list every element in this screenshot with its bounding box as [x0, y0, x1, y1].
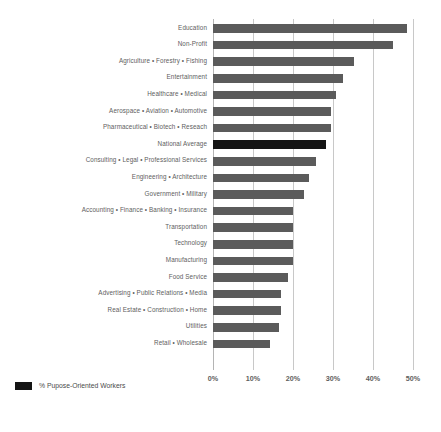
bar-row: Accounting • Finance • Banking • Insuran… — [213, 204, 413, 221]
bar-row: Government • Military — [213, 187, 413, 204]
bar — [213, 223, 293, 232]
plot-area: EducationNon-ProfitAgriculture • Forestr… — [213, 19, 413, 370]
bar-row: Manufacturing — [213, 253, 413, 270]
category-label: Healthcare • Medical — [147, 89, 207, 98]
category-label: Advertising • Public Relations • Media — [98, 288, 207, 297]
bar-row: Non-Profit — [213, 38, 413, 55]
category-label: Consulting • Legal • Professional Servic… — [86, 155, 207, 164]
bar-chart: EducationNon-ProfitAgriculture • Forestr… — [0, 0, 441, 432]
category-label: National Average — [158, 139, 207, 148]
bar-row: Engineering • Architecture — [213, 170, 413, 187]
bar — [213, 41, 393, 50]
x-tick-label: 30% — [326, 374, 340, 384]
bar-row: Education — [213, 21, 413, 38]
category-label: Non-Profit — [178, 39, 207, 48]
bar — [213, 24, 407, 33]
x-tick-label: 40% — [366, 374, 380, 384]
bar — [213, 207, 293, 216]
bar-row: Pharmaceutical • Biotech • Reseach — [213, 121, 413, 138]
category-label: Utilities — [186, 321, 207, 330]
category-label: Transportation — [165, 222, 207, 231]
bar-row: Real Estate • Construction • Home — [213, 303, 413, 320]
category-label: Pharmaceutical • Biotech • Reseach — [103, 122, 207, 131]
bar — [213, 257, 293, 266]
x-tick-label: 20% — [286, 374, 300, 384]
bar — [213, 74, 343, 83]
category-label: Manufacturing — [166, 255, 207, 264]
gridline-50pct — [413, 19, 414, 370]
category-label: Entertainment — [166, 72, 207, 81]
x-tick-label: 10% — [246, 374, 260, 384]
category-label: Education — [178, 23, 207, 32]
bar-row: Retail • Wholesale — [213, 336, 413, 353]
bar-row: Transportation — [213, 220, 413, 237]
bar-row: Utilities — [213, 320, 413, 337]
bar — [213, 140, 326, 149]
bar — [213, 91, 336, 100]
bar-row: National Average — [213, 137, 413, 154]
category-label: Agriculture • Forestry • Fishing — [119, 56, 207, 65]
category-label: Aerospace • Aviation • Automotive — [109, 106, 207, 115]
bar — [213, 323, 279, 332]
category-label: Government • Military — [145, 189, 207, 198]
bar-row: Advertising • Public Relations • Media — [213, 287, 413, 304]
bar — [213, 306, 281, 315]
category-label: Engineering • Architecture — [132, 172, 207, 181]
legend-swatch-purpose-oriented-workers — [15, 382, 32, 390]
bar-row: Agriculture • Forestry • Fishing — [213, 54, 413, 71]
category-label: Technology — [174, 238, 207, 247]
bar-row: Aerospace • Aviation • Automotive — [213, 104, 413, 121]
bar-row: Technology — [213, 237, 413, 254]
category-label: Food Service — [169, 272, 207, 281]
bar — [213, 290, 281, 299]
bar-row: Food Service — [213, 270, 413, 287]
bar — [213, 124, 331, 133]
category-label: Retail • Wholesale — [154, 338, 207, 347]
bar-row: Consulting • Legal • Professional Servic… — [213, 154, 413, 171]
legend-label-purpose-oriented-workers: % Pupose-Oriented Workers — [39, 381, 125, 390]
category-label: Accounting • Finance • Banking • Insuran… — [82, 205, 207, 214]
bar-row: Healthcare • Medical — [213, 87, 413, 104]
chart-legend: % Pupose-Oriented Workers — [0, 381, 245, 390]
bar — [213, 273, 288, 282]
category-label: Real Estate • Construction • Home — [108, 305, 207, 314]
bar — [213, 107, 331, 116]
bar — [213, 57, 354, 66]
bar-row: Entertainment — [213, 71, 413, 88]
bar — [213, 340, 270, 349]
bar — [213, 190, 304, 199]
bar — [213, 240, 293, 249]
bar — [213, 174, 309, 183]
x-tick-label: 50% — [406, 374, 420, 384]
bar — [213, 157, 316, 166]
